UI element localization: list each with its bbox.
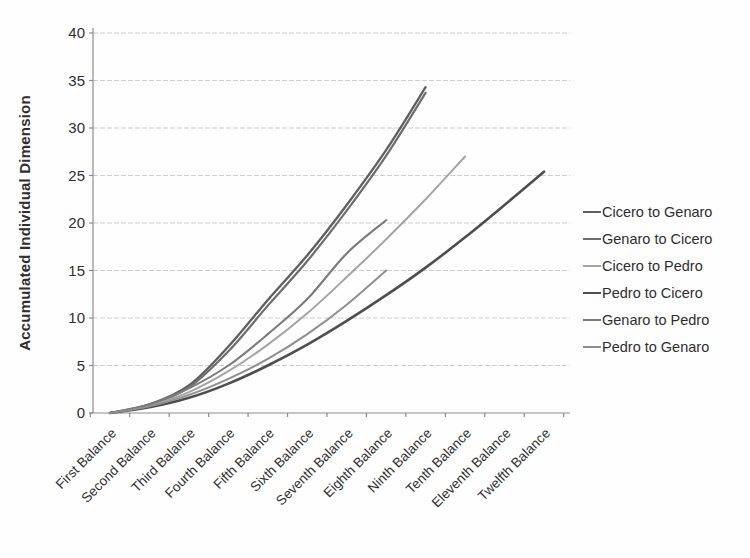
- x-tick-label: Fourth Balance: [162, 426, 237, 501]
- series-line-pedro-to-cicero: [110, 172, 544, 413]
- legend-swatch-line: [583, 211, 601, 213]
- legend-swatch-line: [583, 238, 601, 240]
- x-tick-label: Eighth Balance: [320, 426, 395, 501]
- y-tick-label: 5: [77, 357, 85, 374]
- legend-item-pedro-to-genaro: Pedro to Genaro: [583, 333, 712, 360]
- y-tick-label: 35: [68, 72, 85, 89]
- legend-label: Cicero to Pedro: [602, 258, 703, 274]
- legend-swatch-line: [583, 346, 601, 348]
- legend-item-cicero-to-genaro: Cicero to Genaro: [583, 198, 712, 225]
- legend-item-genaro-to-cicero: Genaro to Cicero: [583, 225, 712, 252]
- y-tick-label: 10: [68, 309, 85, 326]
- legend-swatch-line: [583, 265, 601, 267]
- series-line-pedro-to-genaro: [110, 271, 386, 414]
- legend-swatch-line: [583, 292, 601, 294]
- series-line-genaro-to-pedro: [110, 220, 386, 413]
- y-tick-label: 30: [68, 119, 85, 136]
- chart-figure: Accumulated Individual Dimension 0510152…: [0, 0, 750, 558]
- legend-label: Genaro to Pedro: [602, 312, 709, 328]
- x-tick-label: Twelfth Balance: [475, 426, 553, 504]
- legend-swatch-line: [583, 319, 601, 321]
- legend-item-genaro-to-pedro: Genaro to Pedro: [583, 306, 712, 333]
- legend-label: Cicero to Genaro: [602, 204, 712, 220]
- legend: Cicero to GenaroGenaro to CiceroCicero t…: [583, 198, 712, 360]
- legend-label: Pedro to Cicero: [602, 285, 703, 301]
- y-tick-label: 40: [68, 24, 85, 41]
- legend-label: Genaro to Cicero: [602, 231, 712, 247]
- y-tick-label: 25: [68, 167, 85, 184]
- y-tick-label: 0: [77, 404, 85, 421]
- legend-label: Pedro to Genaro: [602, 339, 709, 355]
- y-tick-label: 20: [68, 214, 85, 231]
- y-tick-label: 15: [68, 262, 85, 279]
- legend-item-cicero-to-pedro: Cicero to Pedro: [583, 252, 712, 279]
- legend-item-pedro-to-cicero: Pedro to Cicero: [583, 279, 712, 306]
